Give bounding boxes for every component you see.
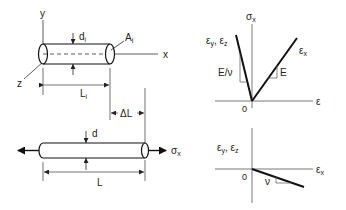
bottom-bar-group: σx d L bbox=[18, 128, 181, 188]
diagram-canvas: y z x di Ai Li ΔL bbox=[0, 0, 346, 210]
stress-label: σx bbox=[171, 145, 181, 157]
y-axis-label: y bbox=[40, 8, 45, 19]
poisson-line bbox=[252, 169, 304, 187]
slope-right-label: E bbox=[280, 67, 287, 78]
axial-strain-axis-label: εx bbox=[316, 164, 324, 176]
axial-strain-label: εx bbox=[299, 45, 307, 57]
length-label: Li bbox=[80, 88, 88, 100]
bar-length-label: L bbox=[97, 177, 103, 188]
bar-diameter-label: d bbox=[92, 128, 98, 139]
lateral-strain-axis-label: εy, εz bbox=[217, 142, 239, 155]
cylinder-right-end bbox=[106, 44, 115, 64]
poisson-origin-label: 0 bbox=[242, 172, 247, 182]
origin-label: 0 bbox=[242, 104, 247, 114]
x-axis-label: x bbox=[163, 49, 168, 60]
poisson-slope-label: ν bbox=[265, 176, 270, 187]
axial-strain-line bbox=[252, 38, 297, 101]
lateral-strain-label: εy, εz bbox=[206, 35, 228, 48]
diameter-label: di bbox=[79, 31, 87, 43]
z-axis-line bbox=[24, 62, 43, 79]
poisson-graph: εy, εz εx 0 ν bbox=[215, 128, 324, 203]
bar-left-end bbox=[39, 143, 43, 158]
elongation-dimension: ΔL bbox=[111, 88, 145, 155]
sigma-axis-label: σx bbox=[246, 11, 256, 23]
slope-left-label: E/ν bbox=[218, 67, 232, 78]
lateral-strain-line bbox=[236, 35, 252, 101]
area-label: Ai bbox=[125, 32, 134, 44]
elongation-label: ΔL bbox=[120, 108, 133, 119]
epsilon-axis-label: ε bbox=[316, 96, 321, 107]
top-bar-group: y z x di Ai Li bbox=[17, 8, 168, 120]
bar-right-end bbox=[142, 143, 149, 158]
stress-strain-graph: σx ε 0 εy, εz E/ν εx E bbox=[206, 11, 321, 114]
z-axis-label: z bbox=[17, 78, 22, 89]
